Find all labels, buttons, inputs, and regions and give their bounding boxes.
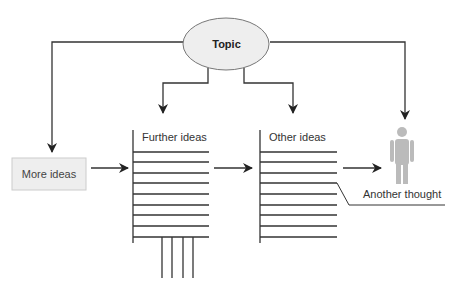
more-ideas-label: More ideas <box>12 158 86 190</box>
connector-topic-further-ideas <box>163 68 208 113</box>
other-ideas-ladder <box>260 130 337 243</box>
another-thought-label: Another thought <box>363 188 441 200</box>
person-icon <box>390 127 414 184</box>
further-ideas-label: Further ideas <box>142 131 207 143</box>
other-ideas-label: Other ideas <box>269 131 326 143</box>
connector-topic-person <box>270 42 405 119</box>
connector-topic-other-ideas <box>244 68 293 113</box>
further-ideas-ladder <box>133 130 209 278</box>
topic-label: Topic <box>183 18 270 70</box>
